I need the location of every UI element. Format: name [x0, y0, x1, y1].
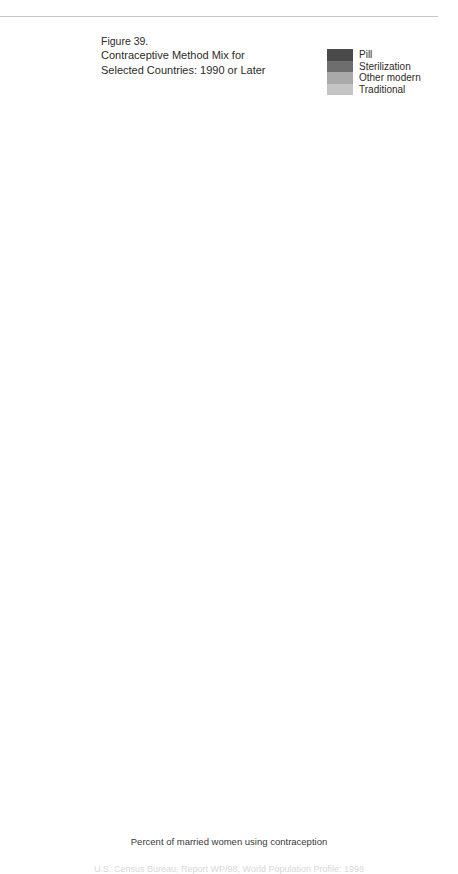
legend-label: Other modern [353, 72, 421, 84]
legend-swatch-pill [327, 49, 353, 61]
legend-swatch-sterilization [327, 61, 353, 73]
legend-swatch-traditional [327, 84, 353, 96]
legend-label: Sterilization [353, 61, 411, 73]
legend: PillSterilizationOther modernTraditional [327, 49, 445, 95]
legend-item: Traditional [327, 84, 445, 96]
top-divider [0, 16, 438, 17]
legend-label: Pill [353, 49, 372, 61]
figure-number: Figure 39. [101, 34, 441, 48]
page-footer-partial: U.S. Census Bureau, Report WP/98, World … [0, 864, 458, 874]
legend-label: Traditional [353, 84, 405, 96]
legend-item: Other modern [327, 72, 445, 84]
legend-swatch-other-modern [327, 72, 353, 84]
x-axis-caption: Percent of married women using contracep… [0, 836, 458, 847]
legend-item: Sterilization [327, 61, 445, 73]
legend-item: Pill [327, 49, 445, 61]
